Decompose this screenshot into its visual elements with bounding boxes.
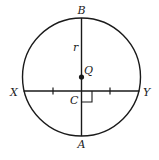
label-q: Q [84,64,93,77]
label-a: A [77,138,86,151]
right-angle-marker [82,91,93,102]
label-b: B [77,4,86,17]
label-y: Y [143,86,152,99]
label-c: C [70,94,79,107]
label-x: X [9,86,19,99]
label-r: r [73,41,79,54]
circle-diagram: B A X Y Q C r [0,0,159,160]
